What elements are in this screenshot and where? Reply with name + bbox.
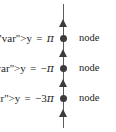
node-diagram-figure: ="var">y = π ="var">y = −π ="var">y = −3… [0,0,116,132]
node-dot-2 [60,65,67,72]
equation-label-2: ="var">y = −π [0,62,54,75]
node-dot-1 [60,35,67,42]
node-dot-3 [60,95,67,102]
up-arrow-icon-1 [59,19,67,27]
up-arrow-icon-4 [59,109,67,117]
equation-label-1: ="var">y = π [0,32,54,45]
equation-label-3: ="var">y = −3π [0,92,54,105]
node-label-1: node [79,32,99,44]
equation-text-2: ="var">y = −π [0,62,54,74]
up-arrow-icon-2 [59,49,67,57]
up-arrow-icon-3 [59,79,67,87]
node-label-3: node [79,92,99,104]
equation-text-1: ="var">y = π [0,32,54,44]
equation-text-3: ="var">y = −3π [0,92,54,104]
node-label-2: node [79,62,99,74]
